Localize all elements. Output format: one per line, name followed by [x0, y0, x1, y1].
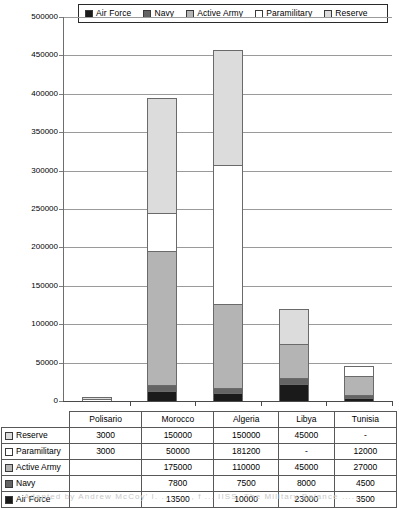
- bar-segment-reserve: [148, 99, 176, 213]
- bar-segment-air-force: [280, 384, 308, 401]
- x-axis-line: [63, 401, 392, 402]
- y-axis-tick-label: 100000: [31, 320, 58, 328]
- bar-group-libya: [279, 17, 309, 402]
- bar-segment-active-army: [280, 344, 308, 378]
- row-header-content: Navy: [5, 477, 66, 490]
- table-column-header: Morocco: [142, 412, 214, 428]
- table-cell: 3000: [70, 444, 142, 460]
- bar-group-polisario: [82, 17, 112, 402]
- table-cell: 27000: [334, 460, 396, 476]
- bar-segment-active-army: [345, 376, 373, 396]
- y-axis-labels: 5000004500004000003500003000002500002000…: [0, 17, 58, 402]
- table-cell: 7800: [142, 476, 214, 492]
- table-row-header: Active Army: [2, 460, 70, 476]
- y-axis-tick-label: 0: [54, 397, 58, 405]
- bar-segment-paramilitary: [214, 165, 242, 303]
- table-row-header: Reserve: [2, 428, 70, 444]
- table-cell: 110000: [214, 460, 279, 476]
- table-row-header: Navy: [2, 476, 70, 492]
- table-header-row: PolisarioMoroccoAlgeriaLibyaTunisia: [2, 412, 397, 428]
- table-row-label: Paramilitary: [16, 445, 61, 458]
- table-column-header: Libya: [278, 412, 334, 428]
- bars-container: [64, 17, 392, 402]
- table-cell: [70, 476, 142, 492]
- y-axis-tick-label: 300000: [31, 167, 58, 175]
- y-axis-tick-label: 200000: [31, 243, 58, 251]
- stacked-bar: [279, 309, 309, 402]
- plot-area: 5000004500004000003500003000002500002000…: [0, 17, 399, 402]
- square-filled-lightgray-icon: [5, 432, 13, 440]
- table-row: Navy7800750080004500: [2, 476, 397, 492]
- bar-segment-reserve: [214, 51, 242, 166]
- table-row: Reserve300015000015000045000-: [2, 428, 397, 444]
- y-axis-tick-label: 400000: [31, 90, 58, 98]
- table-row-header: Paramilitary: [2, 444, 70, 460]
- y-axis-tick-label: 50000: [36, 359, 58, 367]
- bar-group-algeria: [213, 17, 243, 402]
- table-row: Paramilitary300050000181200-12000: [2, 444, 397, 460]
- square-outline-white-icon: [5, 448, 13, 456]
- table-cell: -: [278, 444, 334, 460]
- row-header-content: Paramilitary: [5, 445, 66, 458]
- source-caption: Adapted by Andrew McCoy' I. .. ..... , f…: [0, 492, 399, 505]
- table-row: Active Army1750001100004500027000: [2, 460, 397, 476]
- table-cell: 4500: [334, 476, 396, 492]
- table-cell: [70, 460, 142, 476]
- row-header-content: Active Army: [5, 461, 66, 474]
- table-column-header: Algeria: [214, 412, 279, 428]
- y-axis-tick-label: 150000: [31, 282, 58, 290]
- table-cell: 181200: [214, 444, 279, 460]
- table-cell: 12000: [334, 444, 396, 460]
- table-cell: 50000: [142, 444, 214, 460]
- table-cell: 7500: [214, 476, 279, 492]
- square-filled-midgray-icon: [5, 464, 13, 472]
- bar-segment-active-army: [148, 251, 176, 385]
- bar-segment-paramilitary: [148, 213, 176, 251]
- stacked-bar: [213, 50, 243, 402]
- y-axis-tick-label: 450000: [31, 51, 58, 59]
- row-header-content: Reserve: [5, 429, 66, 442]
- square-filled-darkgray-icon: [5, 480, 13, 488]
- stacked-bar: [147, 98, 177, 402]
- bar-segment-air-force: [148, 391, 176, 401]
- table-column-header: Tunisia: [334, 412, 396, 428]
- table-cell: 3000: [70, 428, 142, 444]
- table-head: PolisarioMoroccoAlgeriaLibyaTunisia: [2, 412, 397, 428]
- stacked-bar: [344, 366, 374, 402]
- table-cell: 45000: [278, 460, 334, 476]
- table-cell: 150000: [214, 428, 279, 444]
- table-cell: 150000: [142, 428, 214, 444]
- table-cell: 8000: [278, 476, 334, 492]
- table-column-header: Polisario: [70, 412, 142, 428]
- y-axis-tick-label: 500000: [31, 13, 58, 21]
- x-axis-tickmark: [392, 401, 393, 406]
- table-cell: 45000: [278, 428, 334, 444]
- table-row-label: Reserve: [16, 429, 48, 442]
- table-cell: 175000: [142, 460, 214, 476]
- bar-group-tunisia: [344, 17, 374, 402]
- y-axis-tick-label: 350000: [31, 128, 58, 136]
- bar-group-morocco: [147, 17, 177, 402]
- table-cell: -: [334, 428, 396, 444]
- y-axis-tick-label: 250000: [31, 205, 58, 213]
- table-row-label: Active Army: [16, 461, 61, 474]
- bar-segment-reserve: [280, 310, 308, 344]
- table-corner-cell: [2, 412, 70, 428]
- bar-segment-paramilitary: [345, 367, 373, 376]
- table-row-label: Navy: [16, 477, 35, 490]
- bar-segment-air-force: [214, 393, 242, 401]
- bar-segment-active-army: [214, 304, 242, 388]
